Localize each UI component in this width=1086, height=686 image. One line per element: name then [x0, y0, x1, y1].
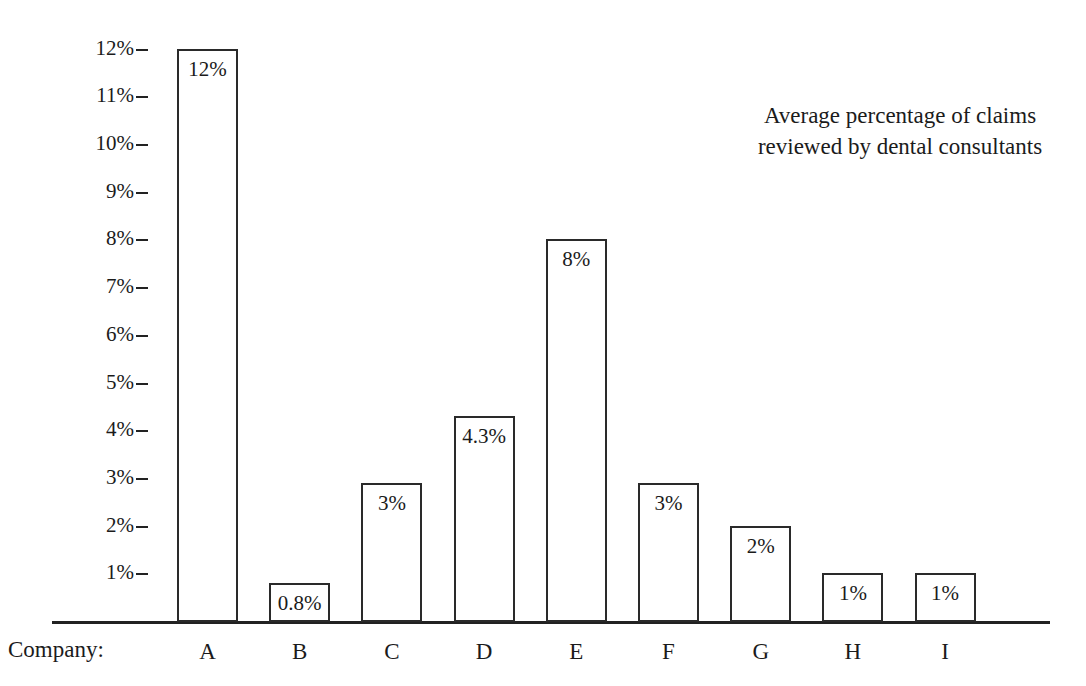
y-axis-tick-label: 11% — [48, 85, 134, 106]
category-label-b: B — [259, 640, 340, 663]
category-label-g: G — [720, 640, 801, 663]
y-axis-tick-label: 9% — [48, 181, 134, 202]
bar-value-label: 8% — [534, 249, 619, 270]
bar-value-label: 12% — [165, 59, 250, 80]
category-label-d: D — [444, 640, 525, 663]
bar-value-label: 4.3% — [442, 426, 527, 447]
y-axis-tick-mark — [136, 335, 148, 337]
y-axis-tick-mark — [136, 478, 148, 480]
y-axis-tick-label: 12% — [48, 38, 134, 59]
y-axis-tick-mark — [136, 526, 148, 528]
bar-value-label: 0.8% — [257, 593, 342, 614]
annotation-line-1: Average percentage of claims — [745, 100, 1055, 131]
y-axis-tick-label: 5% — [48, 372, 134, 393]
y-axis-tick-mark — [136, 49, 148, 51]
y-axis-tick-label: 7% — [48, 276, 134, 297]
category-label-f: F — [628, 640, 709, 663]
x-axis-title: Company: — [8, 638, 104, 661]
annotation-line-2: reviewed by dental consultants — [745, 131, 1055, 162]
bar-e[interactable] — [546, 239, 607, 622]
y-axis-tick-mark — [136, 573, 148, 575]
bar-a[interactable] — [177, 49, 238, 622]
category-label-c: C — [351, 640, 432, 663]
y-axis-tick-label: 3% — [48, 467, 134, 488]
chart-annotation: Average percentage of claims reviewed by… — [745, 100, 1055, 162]
y-axis-tick-mark — [136, 287, 148, 289]
y-axis-tick-label: 1% — [48, 562, 134, 583]
y-axis-tick-label: 8% — [48, 228, 134, 249]
bar-value-label: 1% — [810, 583, 895, 604]
bar-value-label: 1% — [903, 583, 988, 604]
category-label-h: H — [812, 640, 893, 663]
bar-chart: 1%2%3%4%5%6%7%8%9%10%11%12% 12%0.8%3%4.3… — [0, 0, 1086, 686]
y-axis-tick-mark — [136, 430, 148, 432]
category-label-a: A — [167, 640, 248, 663]
category-label-i: I — [905, 640, 986, 663]
y-axis-tick-mark — [136, 239, 148, 241]
bar-value-label: 2% — [718, 536, 803, 557]
bar-value-label: 3% — [349, 493, 434, 514]
y-axis-tick-mark — [136, 96, 148, 98]
y-axis-tick-mark — [136, 192, 148, 194]
y-axis-tick-mark — [136, 144, 148, 146]
y-axis-tick-label: 10% — [48, 133, 134, 154]
y-axis-tick-label: 4% — [48, 419, 134, 440]
y-axis-tick-label: 2% — [48, 515, 134, 536]
y-axis-tick-label: 6% — [48, 324, 134, 345]
bar-value-label: 3% — [626, 493, 711, 514]
y-axis-tick-mark — [136, 383, 148, 385]
category-label-e: E — [536, 640, 617, 663]
